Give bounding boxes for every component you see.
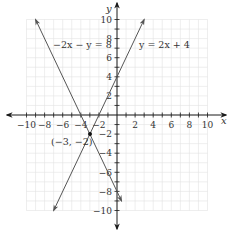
- x-tick-label: 6: [168, 120, 174, 130]
- y-tick-label: −2: [99, 129, 112, 139]
- x-tick-label: 8: [187, 120, 193, 130]
- coordinate-plane: −10−8−6−4−2246810108642−2−4−6−8−10 x y −…: [0, 0, 236, 234]
- axes: [7, 3, 226, 229]
- y-tick-label: 4: [106, 72, 112, 82]
- intersection-point-label: (−3, −2): [51, 136, 92, 147]
- y-tick-label: 10: [101, 15, 113, 25]
- y-tick-label: −10: [93, 206, 112, 216]
- line2-equation-label: y = 2x + 4: [138, 39, 190, 50]
- x-tick-label: −8: [38, 120, 52, 130]
- x-tick-label: −6: [56, 120, 70, 130]
- x-tick-label: 2: [132, 120, 138, 130]
- x-axis-title: x: [221, 115, 227, 126]
- x-tick-label: −10: [17, 120, 36, 130]
- line1-equation-label: −2x − y = 8: [53, 39, 112, 50]
- x-tick-label: 4: [150, 120, 156, 130]
- y-tick-label: 6: [106, 53, 112, 63]
- y-axis-title: y: [105, 3, 112, 14]
- y-tick-label: −8: [99, 187, 113, 197]
- x-tick-label: 10: [202, 120, 214, 130]
